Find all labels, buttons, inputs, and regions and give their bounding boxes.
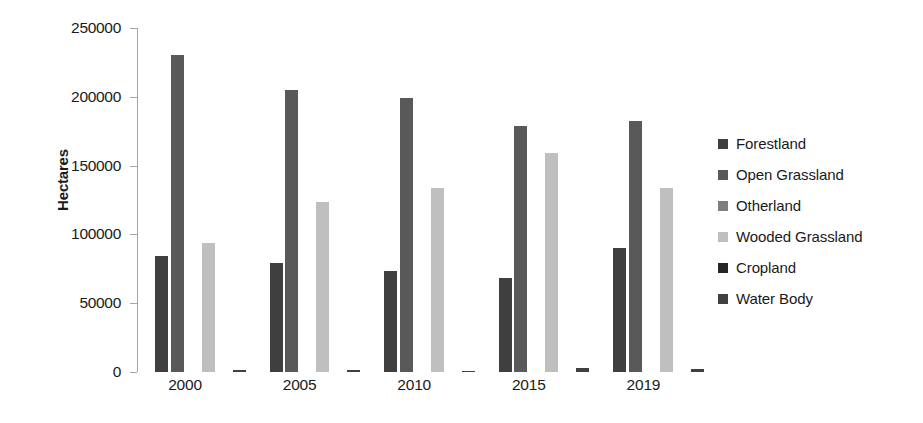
y-axis-tick: 250000 xyxy=(130,28,137,29)
bar xyxy=(431,188,444,372)
legend-swatch-icon xyxy=(718,232,728,242)
legend-item[interactable]: Open Grassland xyxy=(718,159,918,190)
bar-group: 2010 xyxy=(366,28,481,372)
y-axis-tick-label: 50000 xyxy=(79,294,121,312)
legend-item[interactable]: Forestland xyxy=(718,128,918,159)
legend-item[interactable]: Otherland xyxy=(718,190,918,221)
bar xyxy=(270,263,283,372)
y-axis-tick: 0 xyxy=(130,372,137,373)
x-axis-tick-label: 2005 xyxy=(283,376,317,394)
bar-group: 2019 xyxy=(595,28,710,372)
y-axis-tick-label: 100000 xyxy=(71,225,121,243)
bar xyxy=(499,278,512,372)
bar xyxy=(171,55,184,372)
bar xyxy=(576,368,589,372)
bar xyxy=(629,121,642,372)
bar xyxy=(691,369,704,372)
bar-group: 2015 xyxy=(481,28,596,372)
x-axis-tick-label: 2000 xyxy=(168,376,202,394)
y-axis-tick-label: 0 xyxy=(113,363,121,381)
x-axis-tick-label: 2010 xyxy=(397,376,431,394)
bar xyxy=(514,126,527,372)
legend-swatch-icon xyxy=(718,139,728,149)
chart-legend: ForestlandOpen GrasslandOtherlandWooded … xyxy=(718,128,918,314)
y-axis-tick: 150000 xyxy=(130,166,137,167)
legend-item[interactable]: Cropland xyxy=(718,252,918,283)
bar-chart: Hectares 050000100000150000200000250000 … xyxy=(0,0,923,423)
legend-swatch-icon xyxy=(718,201,728,211)
y-axis-tick: 50000 xyxy=(130,303,137,304)
bar xyxy=(400,98,413,373)
bar xyxy=(660,188,673,372)
bar xyxy=(202,243,215,372)
bar xyxy=(316,202,329,372)
legend-item[interactable]: Water Body xyxy=(718,283,918,314)
legend-label: Water Body xyxy=(736,290,813,307)
legend-label: Forestland xyxy=(736,135,806,152)
x-axis-tick-label: 2019 xyxy=(627,376,661,394)
legend-swatch-icon xyxy=(718,263,728,273)
legend-label: Otherland xyxy=(736,197,801,214)
legend-swatch-icon xyxy=(718,294,728,304)
bar xyxy=(613,248,626,372)
y-axis-tick: 200000 xyxy=(130,97,137,98)
y-axis-tick: 100000 xyxy=(130,234,137,235)
legend-label: Open Grassland xyxy=(736,166,844,183)
bar-group: 2005 xyxy=(252,28,367,372)
bar xyxy=(347,370,360,372)
bar xyxy=(285,90,298,372)
bar-group: 2000 xyxy=(137,28,252,372)
bar xyxy=(545,153,558,372)
y-axis-tick-label: 250000 xyxy=(71,19,121,37)
y-axis-tick-label: 150000 xyxy=(71,157,121,175)
bar xyxy=(462,371,475,373)
x-axis-tick-label: 2015 xyxy=(512,376,546,394)
legend-swatch-icon xyxy=(718,170,728,180)
y-axis-title: Hectares xyxy=(54,120,71,240)
legend-label: Cropland xyxy=(736,259,796,276)
y-axis-tick-label: 200000 xyxy=(71,88,121,106)
bar xyxy=(233,370,246,372)
legend-label: Wooded Grassland xyxy=(736,228,863,245)
legend-item[interactable]: Wooded Grassland xyxy=(718,221,918,252)
bar xyxy=(155,256,168,372)
bar xyxy=(384,271,397,372)
plot-area: 050000100000150000200000250000 200020052… xyxy=(137,28,710,372)
